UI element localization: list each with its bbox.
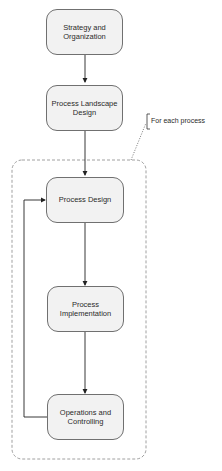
group-annotation: For each process (151, 117, 205, 124)
edge-feedback-loop (24, 200, 48, 417)
annotation-bracket-icon (147, 114, 150, 129)
annotation-leader (131, 123, 146, 160)
node-strategy: Strategy and Organization (46, 9, 123, 55)
node-operations: Operations and Controlling (47, 394, 124, 440)
node-implementation: Process Implementation (47, 286, 124, 332)
node-design: Process Design (46, 177, 124, 223)
node-landscape: Process Landscape Design (46, 85, 123, 131)
